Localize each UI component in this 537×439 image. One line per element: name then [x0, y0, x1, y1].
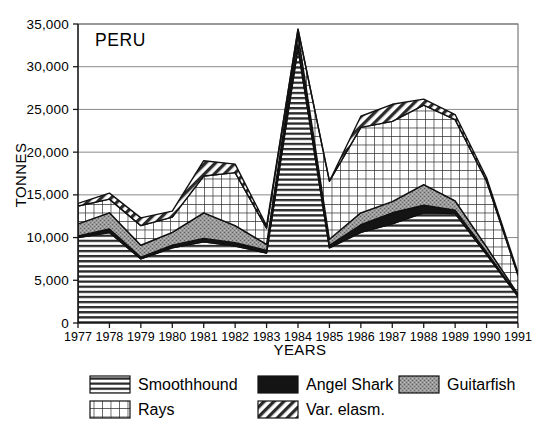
x-tick-label: 1989 [441, 330, 469, 344]
legend-label: Rays [138, 401, 174, 418]
legend-swatch-horizontal-lines [90, 376, 130, 393]
x-tick-label: 1978 [96, 330, 124, 344]
y-axis-title: TONNES [12, 143, 29, 208]
x-tick-label: 1981 [190, 330, 218, 344]
legend-entry: Smoothhound [90, 376, 238, 393]
y-tick-label: 20,000 [27, 145, 70, 160]
x-tick-label: 1988 [410, 330, 438, 344]
legend-swatch-solid-black [258, 376, 298, 393]
legend-label: Smoothhound [138, 376, 238, 393]
x-axis-title: YEARS [274, 341, 327, 358]
plot-title: PERU [95, 30, 146, 50]
x-tick-label: 1986 [347, 330, 375, 344]
legend-swatch-diagonal-hatch [258, 401, 298, 418]
x-tick-label: 1991 [504, 330, 532, 344]
legend-entry: Var. elasm. [258, 401, 385, 418]
x-tick-label: 1979 [127, 330, 155, 344]
legend-entry: Guitarfish [399, 376, 515, 393]
legend-swatch-gray-stipple [399, 376, 439, 393]
y-tick-label: 35,000 [27, 17, 70, 32]
x-tick-label: 1980 [158, 330, 186, 344]
legend-swatch-cross-hatch [90, 401, 130, 418]
y-tick-label: 5,000 [34, 273, 69, 288]
legend-label: Var. elasm. [306, 401, 385, 418]
x-tick-label: 1982 [221, 330, 249, 344]
y-tick-label: 15,000 [27, 187, 70, 202]
y-tick-label: 30,000 [27, 59, 70, 74]
y-tick-label: 25,000 [27, 102, 70, 117]
legend-label: Angel Shark [306, 376, 394, 393]
y-tick-label: 10,000 [27, 230, 70, 245]
x-tick-label: 1977 [64, 330, 92, 344]
stacked-area-chart: 05,00010,00015,00020,00025,00030,00035,0… [0, 0, 537, 439]
x-tick-label: 1990 [473, 330, 501, 344]
y-tick-label: 0 [61, 316, 69, 331]
chart-figure: 05,00010,00015,00020,00025,00030,00035,0… [0, 0, 537, 439]
legend-label: Guitarfish [447, 376, 515, 393]
x-tick-label: 1987 [378, 330, 406, 344]
legend-entry: Angel Shark [258, 376, 394, 393]
